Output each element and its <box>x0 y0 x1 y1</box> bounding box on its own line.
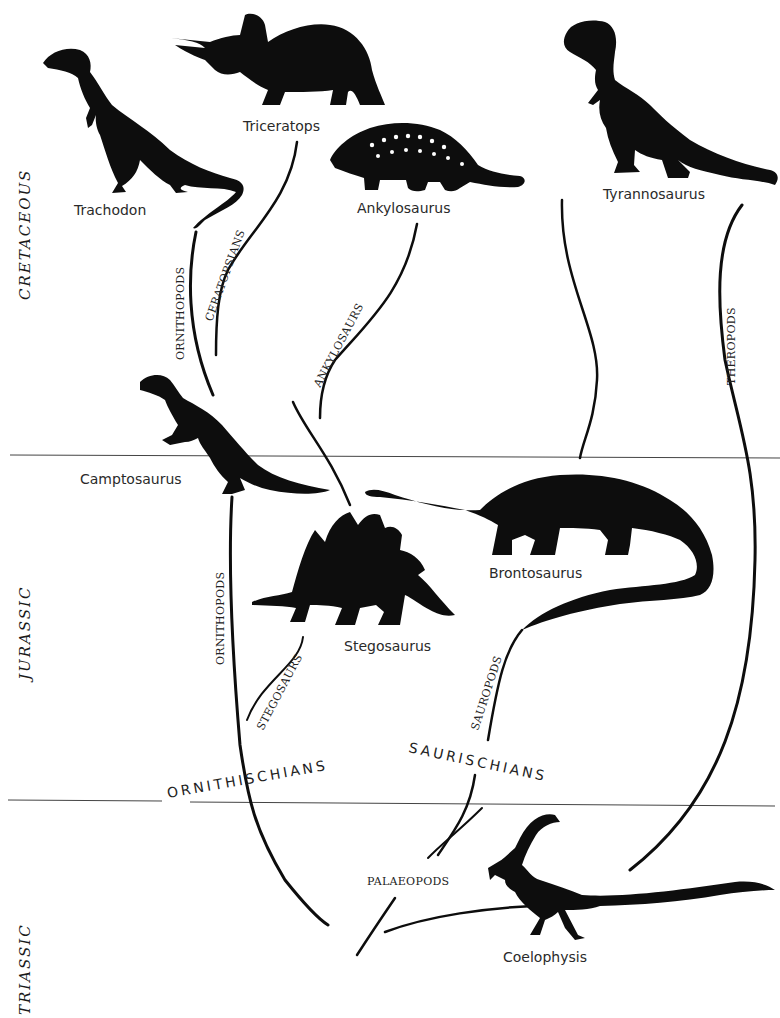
lineage-palaeopods-left <box>357 898 395 955</box>
divider-jurassic-triassic-left <box>8 800 162 801</box>
era-label-cretaceous: CRETACEOUS <box>16 169 34 300</box>
divider-jurassic-triassic-right <box>190 802 775 806</box>
label-ankylosaurs: ANKYLOSAURS <box>311 301 367 390</box>
divider-cretaceous-jurassic <box>10 455 780 458</box>
label-ornithopods-upper: ORNITHOPODS <box>174 267 187 360</box>
label-palaeopods: PALAEOPODS <box>367 875 449 888</box>
brontosaurus-silhouette <box>365 474 714 630</box>
label-stegosaurus: Stegosaurus <box>344 638 431 654</box>
label-triceratops: Triceratops <box>242 118 320 134</box>
era-label-triassic: TRIASSIC <box>16 923 34 1015</box>
label-theropods: THEROPODS <box>725 307 738 385</box>
label-stegosaurs: STEGOSAURS <box>254 652 305 733</box>
label-ceratopsians: CERATOPSIANS <box>203 228 248 323</box>
label-ornithopods-lower: ORNITHOPODS <box>214 572 227 665</box>
lineage-ankylosaurs <box>320 224 417 418</box>
coelophysis-silhouette <box>488 814 775 940</box>
stegosaurus-silhouette <box>252 512 455 625</box>
label-ankylosaurus: Ankylosaurus <box>357 200 450 216</box>
label-tyrannosaurus: Tyrannosaurus <box>602 186 705 202</box>
lineage-carnosaur-stem <box>562 200 597 458</box>
label-trachodon: Trachodon <box>73 202 146 218</box>
label-ornithischians: ORNITHISCHIANS <box>166 757 329 801</box>
label-saurischians: SAURISCHIANS <box>407 739 548 784</box>
era-label-jurassic: JURASSIC <box>16 586 34 683</box>
ankylosaurus-silhouette <box>330 123 525 191</box>
dinosaur-evolution-diagram: CRETACEOUS JURASSIC TRIASSIC Trach <box>0 0 780 1018</box>
label-camptosaurus: Camptosaurus <box>80 471 182 487</box>
tyrannosaurus-silhouette <box>564 20 778 185</box>
label-coelophysis: Coelophysis <box>503 949 587 965</box>
triceratops-silhouette <box>170 14 385 105</box>
label-sauropods: SAUROPODS <box>468 654 504 732</box>
lineage-palaeopods-lower <box>385 906 533 932</box>
lineage-palaeopods-upper <box>428 808 482 858</box>
label-brontosaurus: Brontosaurus <box>489 565 582 581</box>
